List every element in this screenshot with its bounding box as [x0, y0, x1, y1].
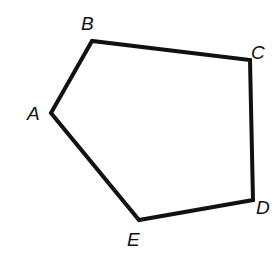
diagram-svg: A B C D E: [0, 0, 279, 253]
vertex-label-d: D: [256, 197, 270, 218]
vertex-label-a: A: [26, 103, 40, 124]
vertex-label-e: E: [127, 229, 140, 250]
pentagon-abcde: [51, 41, 253, 220]
pentagon-diagram: A B C D E: [0, 0, 279, 253]
vertex-label-b: B: [81, 13, 94, 34]
vertex-label-c: C: [251, 42, 265, 63]
